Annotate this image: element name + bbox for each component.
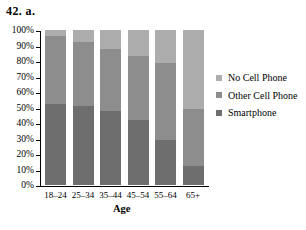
chart-legend: No Cell PhoneOther Cell PhoneSmartphone (216, 72, 304, 125)
y-tick-mark (36, 109, 41, 110)
y-tick-label: 30% (0, 135, 34, 145)
bar-segment-smartphone (45, 104, 66, 185)
bar-segment-smartphone (73, 106, 94, 185)
bar-segment-other-cell-phone (128, 56, 149, 120)
y-tick-label: 70% (0, 73, 34, 83)
bar-segment-no-cell-phone (128, 30, 149, 56)
y-axis-tick: 50% (40, 109, 41, 110)
y-tick-label: 10% (0, 166, 34, 176)
y-axis-tick: 90% (40, 47, 41, 48)
bar-5 (155, 30, 176, 185)
y-axis-tick: 30% (40, 140, 41, 141)
y-axis-tick: 60% (40, 93, 41, 94)
y-tick-mark (36, 140, 41, 141)
y-tick-label: 100% (0, 26, 34, 36)
bar-segment-smartphone (100, 111, 121, 185)
bar-segment-smartphone (155, 140, 176, 185)
problem-number-label: 42. a. (6, 4, 35, 18)
y-tick-mark (36, 171, 41, 172)
y-tick-label: 50% (0, 104, 34, 114)
y-tick-label: 20% (0, 150, 34, 160)
y-tick-mark (36, 31, 41, 32)
legend-label: No Cell Phone (228, 72, 304, 84)
plot-area: 100%90%80%70%60%50%40%30%20%10%0% 18–242… (40, 31, 208, 186)
bar-4 (128, 30, 149, 185)
bar-segment-no-cell-phone (155, 30, 176, 63)
y-tick-label: 80% (0, 57, 34, 67)
bar-segment-no-cell-phone (45, 30, 66, 36)
y-axis-tick: 40% (40, 124, 41, 125)
y-tick-label: 40% (0, 119, 34, 129)
legend-item: Smartphone (216, 107, 304, 119)
y-axis-tick: 0% (40, 186, 41, 187)
bar-segment-no-cell-phone (183, 30, 204, 109)
y-axis-tick: 10% (40, 171, 41, 172)
bar-1 (45, 30, 66, 185)
y-tick-label: 90% (0, 42, 34, 52)
x-axis-title: Age (113, 203, 131, 215)
bar-2 (73, 30, 94, 185)
y-tick-label: 60% (0, 88, 34, 98)
bar-6 (183, 30, 204, 185)
bar-segment-other-cell-phone (100, 49, 121, 111)
y-tick-mark (36, 186, 41, 187)
x-axis-line (40, 186, 209, 187)
y-axis-tick: 70% (40, 78, 41, 79)
y-tick-label: 0% (0, 181, 34, 191)
legend-swatch-icon (216, 110, 222, 116)
bar-segment-smartphone (128, 120, 149, 185)
bar-segment-smartphone (183, 166, 204, 185)
bar-3 (100, 30, 121, 185)
legend-item: No Cell Phone (216, 72, 304, 84)
legend-swatch-icon (216, 75, 222, 81)
y-tick-mark (36, 155, 41, 156)
bar-segment-no-cell-phone (73, 30, 94, 42)
legend-swatch-icon (216, 92, 222, 98)
y-tick-mark (36, 124, 41, 125)
y-axis-tick: 80% (40, 62, 41, 63)
y-tick-mark (36, 93, 41, 94)
chart-page: 42. a. 100%90%80%70%60%50%40%30%20%10%0%… (0, 0, 306, 230)
y-tick-mark (36, 47, 41, 48)
bar-segment-other-cell-phone (183, 109, 204, 166)
bar-segment-other-cell-phone (155, 63, 176, 141)
x-tick-label: 65+ (173, 190, 213, 200)
bar-segment-other-cell-phone (73, 42, 94, 106)
y-tick-mark (36, 78, 41, 79)
y-tick-mark (36, 62, 41, 63)
legend-label: Other Cell Phone (228, 90, 304, 102)
bar-segment-other-cell-phone (45, 36, 66, 104)
bar-segment-no-cell-phone (100, 30, 121, 49)
legend-label: Smartphone (228, 107, 304, 119)
y-axis-tick: 100% (40, 31, 41, 32)
y-axis-tick: 20% (40, 155, 41, 156)
legend-item: Other Cell Phone (216, 90, 304, 102)
